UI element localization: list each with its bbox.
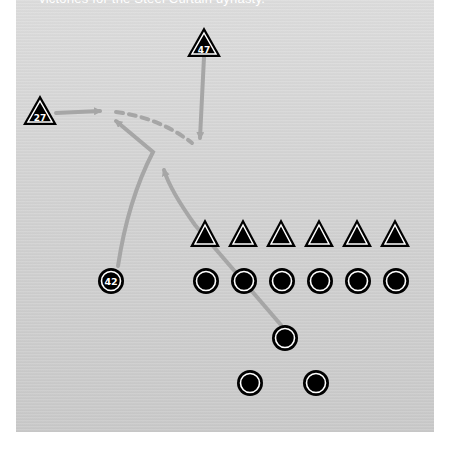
defender-triangle (266, 219, 296, 247)
defender-27: 27 (23, 95, 57, 125)
defender-47: 47 (187, 27, 221, 57)
defensive-line (190, 219, 410, 247)
backfield (237, 325, 329, 396)
route-47 (200, 57, 204, 138)
offense-42-number: 42 (104, 276, 117, 287)
defender-27-number: 27 (34, 113, 47, 123)
offensive-line (193, 268, 409, 294)
play-diagram: 27 47 42 (0, 0, 449, 450)
route-27 (56, 111, 100, 113)
route-dashed-pass (116, 112, 192, 143)
defender-47-number: 47 (198, 45, 211, 55)
quarterback-circle (272, 325, 298, 351)
offense-circle (193, 268, 219, 294)
offense-circle (307, 268, 333, 294)
route-quarterback (164, 170, 281, 325)
offense-42: 42 (98, 268, 124, 294)
offense-circle (269, 268, 295, 294)
route-42 (116, 121, 153, 266)
defender-triangle (342, 219, 372, 247)
defender-triangle (380, 219, 410, 247)
defender-triangle (228, 219, 258, 247)
offense-circle (345, 268, 371, 294)
offense-circle (231, 268, 257, 294)
running-back-circle (237, 370, 263, 396)
defender-triangle (304, 219, 334, 247)
running-back-circle (303, 370, 329, 396)
offense-circle (383, 268, 409, 294)
